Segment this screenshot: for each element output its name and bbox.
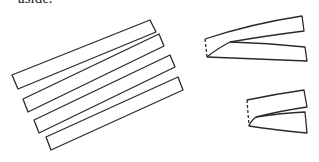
folded-strip-large: [205, 16, 307, 61]
flat-strips-group: [12, 20, 183, 150]
strips-illustration: [0, 0, 319, 162]
folded-strip-small: [247, 90, 307, 133]
